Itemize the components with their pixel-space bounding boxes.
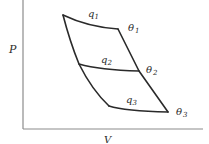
- isotherm-3-curve: [109, 106, 168, 112]
- q2-label: q2: [101, 54, 112, 67]
- theta1-label: θ1: [128, 22, 140, 35]
- pv-diagram: P V q1 q2 q3 θ1 θ2 θ3: [0, 0, 209, 144]
- y-axis-label: P: [8, 43, 17, 56]
- q1-label: q1: [88, 8, 99, 21]
- theta2-label: θ2: [146, 64, 158, 77]
- x-axis-label: V: [104, 134, 113, 144]
- theta3-label: θ3: [176, 106, 188, 119]
- q3-label: q3: [126, 94, 137, 107]
